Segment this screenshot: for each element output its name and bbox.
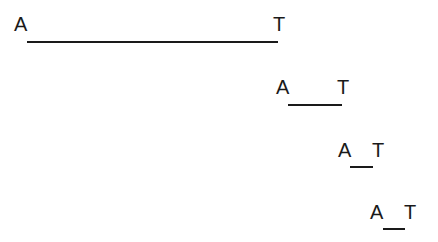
base-label-thymine: T bbox=[273, 14, 285, 34]
span-rule bbox=[383, 228, 405, 230]
span-rule bbox=[350, 166, 373, 168]
span-rule bbox=[288, 104, 342, 106]
base-label-thymine: T bbox=[372, 140, 384, 160]
diagram-canvas: A T A T A T A T bbox=[0, 0, 438, 242]
base-label-adenine: A bbox=[276, 77, 289, 97]
base-label-thymine: T bbox=[404, 202, 416, 222]
base-label-thymine: T bbox=[337, 77, 349, 97]
base-label-adenine: A bbox=[370, 202, 383, 222]
base-label-adenine: A bbox=[338, 140, 351, 160]
base-label-adenine: A bbox=[14, 14, 27, 34]
span-rule bbox=[27, 41, 278, 43]
